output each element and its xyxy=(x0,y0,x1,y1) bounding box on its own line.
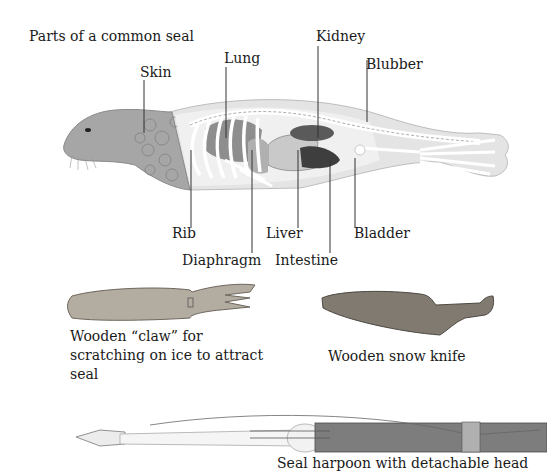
label-skin: Skin xyxy=(140,64,172,80)
seal-head-skin xyxy=(64,109,190,190)
claw-caption-line3: seal xyxy=(70,365,263,384)
diagram-title: Parts of a common seal xyxy=(29,28,194,44)
seal-illustration xyxy=(64,100,509,190)
label-kidney: Kidney xyxy=(316,28,365,44)
snow-knife-caption: Wooden snow knife xyxy=(328,347,466,366)
label-liver: Liver xyxy=(266,225,303,241)
wooden-claw-illustration xyxy=(68,284,256,320)
label-intestine: Intestine xyxy=(275,252,338,268)
label-bladder: Bladder xyxy=(354,225,410,241)
label-blubber: Blubber xyxy=(366,56,423,72)
claw-caption-line1: Wooden “claw” for xyxy=(70,327,263,346)
label-rib: Rib xyxy=(172,225,196,241)
seal-eye xyxy=(85,128,91,132)
label-diaphragm: Diaphragm xyxy=(182,252,261,268)
harpoon-caption: Seal harpoon with detachable head xyxy=(277,454,528,473)
kidney xyxy=(290,125,334,141)
harpoon-illustration xyxy=(76,415,547,452)
bladder xyxy=(355,145,365,155)
claw-caption: Wooden “claw” for scratching on ice to a… xyxy=(70,327,263,384)
claw-caption-line2: scratching on ice to attract xyxy=(70,346,263,365)
snow-knife-illustration xyxy=(322,291,494,335)
label-lung: Lung xyxy=(224,50,260,66)
